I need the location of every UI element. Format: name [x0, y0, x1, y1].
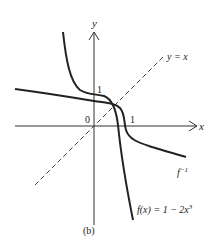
origin-label: 0 [85, 114, 90, 125]
x-axis-label: x [198, 120, 204, 132]
inverse-curve [15, 89, 186, 157]
function-inverse-graph: y x 0 1 1 y = x f−1 f(x) = 1 − 2x3 (b) [0, 0, 219, 243]
y-axis-label: y [91, 17, 97, 29]
y-tick-label: 1 [97, 84, 102, 95]
inverse-label: f−1 [177, 166, 188, 178]
caption: (b) [83, 225, 95, 237]
x-tick-label: 1 [130, 114, 135, 125]
function-label: f(x) = 1 − 2x3 [137, 203, 193, 216]
identity-line [35, 57, 163, 185]
identity-line-label: y = x [166, 51, 188, 62]
